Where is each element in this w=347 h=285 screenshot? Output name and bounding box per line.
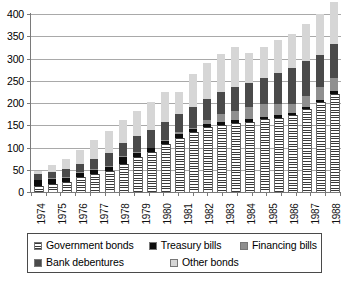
- bar-segment-government-bonds: [62, 182, 72, 192]
- legend-item-treasury-bills[interactable]: Treasury bills: [149, 240, 240, 251]
- y-tick-label-50: 50: [13, 165, 24, 176]
- legend-swatch-icon: [34, 259, 42, 267]
- bar-stack: [302, 24, 310, 192]
- bar-segment-other-bonds: [62, 159, 70, 170]
- bar-column-1986[interactable]: [200, 14, 214, 192]
- x-tick-label-1986: 1986: [289, 203, 299, 224]
- y-tick-mark: [27, 14, 31, 15]
- bar-segment-government-bonds: [189, 132, 199, 192]
- bar-stack: [217, 54, 225, 192]
- bar-segment-government-bonds: [105, 171, 115, 192]
- bar-column-1983[interactable]: [158, 14, 172, 192]
- bar-column-1995[interactable]: [327, 14, 341, 192]
- bar-column-1979[interactable]: [101, 14, 115, 192]
- bar-segment-other-bonds: [76, 150, 84, 165]
- bar-segment-bank-debentures: [217, 92, 225, 114]
- legend-item-financing-bills[interactable]: Financing bills: [240, 240, 317, 251]
- x-tick-label-1987: 1987: [310, 203, 320, 224]
- y-tick-label-150: 150: [7, 120, 24, 131]
- bar-stack: [105, 131, 113, 192]
- bar-segment-other-bonds: [260, 47, 268, 77]
- bar-stack: [330, 2, 338, 192]
- legend-item-government-bonds[interactable]: Government bonds: [34, 240, 149, 251]
- bar-segment-financing-bills: [217, 114, 225, 122]
- bar-segment-financing-bills: [316, 87, 324, 99]
- bar-column-1976[interactable]: [59, 14, 73, 192]
- bar-stack: [62, 159, 70, 192]
- bar-segment-government-bonds: [231, 123, 241, 192]
- y-tick-label-0: 0: [18, 187, 24, 198]
- bar-segment-other-bonds: [90, 140, 98, 159]
- x-tick-col: 1986: [284, 196, 305, 230]
- bar-stack: [119, 120, 127, 192]
- bar-segment-financing-bills: [330, 78, 338, 91]
- legend-item-bank-debentures[interactable]: Bank debentures: [34, 257, 170, 268]
- bar-segment-government-bonds: [288, 115, 298, 192]
- bar-column-1991[interactable]: [271, 14, 285, 192]
- plot-wrapper: 400350300250200150100500 197419751976197…: [0, 0, 347, 196]
- bar-stack: [34, 171, 42, 192]
- bar-segment-other-bonds: [105, 131, 113, 153]
- bar-stack: [76, 150, 84, 192]
- bar-segment-government-bonds: [133, 157, 143, 192]
- bar-segment-other-bonds: [133, 111, 141, 136]
- bar-column-1982[interactable]: [144, 14, 158, 192]
- y-tick-mark: [27, 192, 31, 193]
- bar-column-1994[interactable]: [313, 14, 327, 192]
- bar-stack: [189, 74, 197, 192]
- y-tick-label-350: 350: [7, 31, 24, 42]
- bar-column-1975[interactable]: [45, 14, 59, 192]
- x-tick-col: 1987: [305, 196, 326, 230]
- y-tick-mark: [27, 59, 31, 60]
- bar-segment-government-bonds: [316, 102, 326, 192]
- bar-column-1987[interactable]: [214, 14, 228, 192]
- bar-segment-government-bonds: [245, 122, 255, 192]
- bar-segment-financing-bills: [260, 104, 268, 116]
- y-tick-mark: [27, 103, 31, 104]
- bar-column-1993[interactable]: [299, 14, 313, 192]
- x-tick-label-1975: 1975: [58, 203, 68, 224]
- bar-column-1977[interactable]: [73, 14, 87, 192]
- bar-segment-bank-debentures: [288, 68, 296, 104]
- bar-column-1978[interactable]: [87, 14, 101, 192]
- legend-item-other-bonds[interactable]: Other bonds: [170, 257, 239, 268]
- x-tick-label-1982: 1982: [205, 203, 215, 224]
- bar-stack: [175, 92, 183, 192]
- bar-segment-government-bonds: [217, 125, 227, 192]
- bar-column-1980[interactable]: [116, 14, 130, 192]
- bar-column-1981[interactable]: [130, 14, 144, 192]
- bar-column-1989[interactable]: [242, 14, 256, 192]
- legend-label: Government bonds: [46, 240, 134, 251]
- bar-segment-other-bonds: [203, 63, 211, 99]
- bar-column-1988[interactable]: [228, 14, 242, 192]
- bar-segment-government-bonds: [161, 144, 171, 192]
- x-axis: 1974197519761977197819791980198119821983…: [31, 196, 341, 230]
- bar-column-1985[interactable]: [186, 14, 200, 192]
- bar-segment-government-bonds: [76, 177, 86, 192]
- bar-segment-financing-bills: [245, 107, 253, 119]
- x-tick-col: 1974: [31, 196, 52, 230]
- bar-segment-government-bonds: [147, 152, 157, 192]
- x-tick-col: 1981: [178, 196, 199, 230]
- y-tick-mark: [27, 148, 31, 149]
- bar-segment-government-bonds: [90, 174, 100, 192]
- bar-column-1974[interactable]: [31, 14, 45, 192]
- bar-segment-bank-debentures: [90, 159, 98, 169]
- y-tick-mark: [27, 36, 31, 37]
- bar-segment-bank-debentures: [189, 107, 197, 127]
- y-tick-mark: [27, 81, 31, 82]
- bar-segment-bank-debentures: [203, 99, 211, 120]
- bar-segment-other-bonds: [48, 165, 56, 172]
- bar-segment-government-bonds: [48, 184, 58, 192]
- bar-column-1990[interactable]: [257, 14, 271, 192]
- bar-segment-bank-debentures: [260, 78, 268, 105]
- bar-segment-other-bonds: [288, 34, 296, 67]
- bar-column-1992[interactable]: [285, 14, 299, 192]
- bar-segment-financing-bills: [274, 104, 282, 115]
- legend-label: Other bonds: [182, 257, 239, 268]
- bar-segment-government-bonds: [274, 118, 284, 192]
- x-tick-label-1978: 1978: [121, 203, 131, 224]
- bar-segment-bank-debentures: [147, 130, 155, 148]
- bar-stack: [274, 40, 282, 192]
- bar-column-1984[interactable]: [172, 14, 186, 192]
